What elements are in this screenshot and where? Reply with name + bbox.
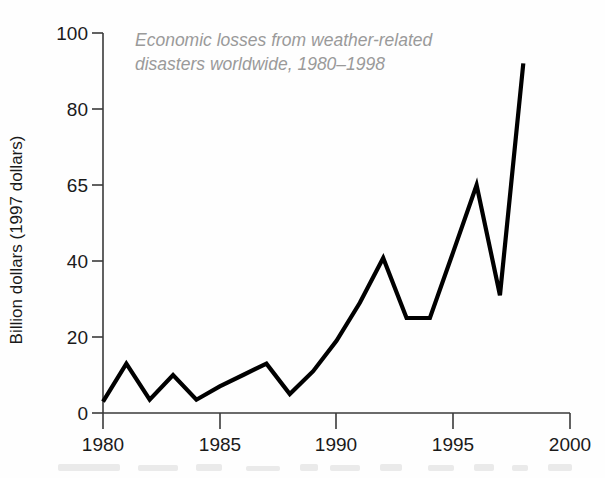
line-chart-canvas: Billion dollars (1997 dollars) 100 80 65… bbox=[0, 0, 605, 478]
chart-figure: Billion dollars (1997 dollars) 100 80 65… bbox=[0, 0, 605, 478]
y-tick-label-40: 40 bbox=[67, 251, 88, 272]
x-tick-label-1980: 1980 bbox=[82, 434, 124, 455]
scan-artifact-strip bbox=[0, 455, 605, 478]
y-tick-label-80: 80 bbox=[67, 99, 88, 120]
data-series-line bbox=[103, 63, 523, 401]
y-axis-label: Billion dollars (1997 dollars) bbox=[7, 136, 26, 345]
chart-title-line1: Economic losses from weather-related bbox=[135, 30, 434, 50]
chart-title-line2: disasters worldwide, 1980–1998 bbox=[135, 54, 385, 74]
x-tick-label-2000: 2000 bbox=[549, 434, 591, 455]
y-tick-label-0: 0 bbox=[77, 403, 88, 424]
y-tick-label-65: 65 bbox=[67, 175, 88, 196]
x-tick-label-1995: 1995 bbox=[432, 434, 474, 455]
y-tick-label-100: 100 bbox=[56, 23, 88, 44]
x-tick-label-1985: 1985 bbox=[199, 434, 241, 455]
y-tick-label-20: 20 bbox=[67, 327, 88, 348]
x-tick-label-1990: 1990 bbox=[315, 434, 357, 455]
